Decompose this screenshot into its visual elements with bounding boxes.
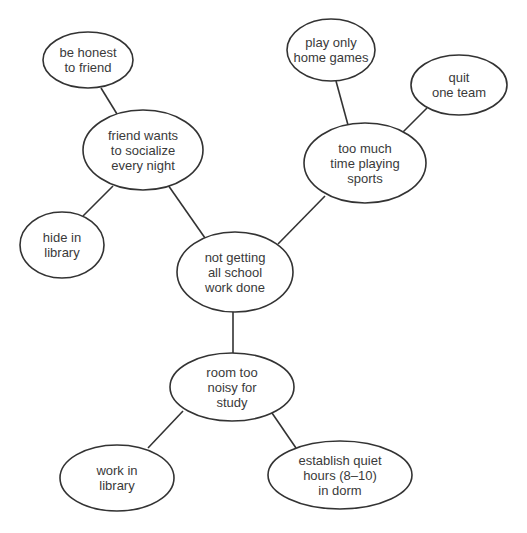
edge-sports-home bbox=[336, 81, 348, 125]
edge-noisy-worklib bbox=[148, 411, 183, 448]
edge-friend-hide bbox=[83, 186, 113, 216]
edge-center-friend bbox=[168, 185, 205, 238]
node-label-worklib: work in library bbox=[96, 463, 137, 493]
edge-noisy-quiet bbox=[272, 413, 296, 448]
edge-center-sports bbox=[278, 196, 325, 244]
node-label-sports: too much time playing sports bbox=[330, 141, 399, 186]
node-label-hide: hide in library bbox=[43, 230, 81, 260]
node-label-home: play only home games bbox=[293, 35, 368, 65]
node-label-friend: friend wants to socialize every night bbox=[108, 128, 178, 173]
edge-sports-quit bbox=[403, 108, 427, 132]
node-label-honest: be honest to friend bbox=[59, 45, 116, 75]
edge-friend-honest bbox=[101, 88, 117, 114]
node-label-noisy: room too noisy for study bbox=[206, 365, 257, 410]
node-label-quit: quit one team bbox=[432, 70, 486, 100]
node-label-quiet: establish quiet hours (8–10) in dorm bbox=[298, 453, 381, 498]
node-label-center: not getting all school work done bbox=[205, 250, 266, 295]
